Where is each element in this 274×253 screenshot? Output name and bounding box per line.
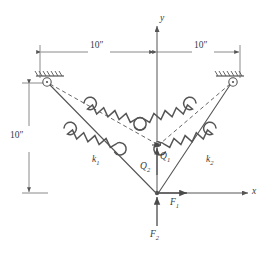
spring-k1 (50, 85, 155, 192)
dim-label-top-left: 10″ (90, 41, 103, 51)
dim-label-top-right: 10″ (194, 41, 207, 51)
spring-k1-label: k1 (92, 155, 99, 166)
spring-k2-label: k2 (206, 155, 213, 166)
coil-k1-upper (84, 97, 146, 130)
dof-Q2-subscript: 2 (147, 166, 150, 173)
force-F1-label: F1 (170, 198, 179, 209)
dashed-left (50, 84, 155, 143)
force-F2-label: F2 (150, 230, 159, 241)
member-k1 (50, 85, 155, 192)
coil-k2-upper (134, 97, 196, 130)
undeformed-members (50, 84, 230, 143)
figure-canvas: 10″ 10″ 10″ y x k1 k2 Q1 Q2 F1 F2 (0, 0, 274, 253)
dof-Q1-symbol: Q (160, 151, 167, 161)
dof-Q2-label: Q2 (140, 162, 150, 173)
spring-k2 (134, 85, 230, 192)
force-F1-subscript: 1 (176, 202, 179, 209)
spring-k2-subscript: 2 (210, 159, 213, 166)
support-left (35, 71, 64, 86)
dof-Q1-subscript: 1 (167, 156, 170, 163)
dimension-left-group (22, 83, 48, 193)
member-k2 (159, 85, 230, 192)
coil-k1-lower (64, 122, 126, 155)
axes-group (157, 26, 248, 193)
diagram-svg (0, 0, 274, 253)
dimension-top-group (40, 45, 240, 78)
dim-label-left-vertical: 10″ (10, 131, 23, 141)
dof-Q2-symbol: Q (140, 161, 147, 171)
dof-Q1-label: Q1 (160, 152, 170, 163)
force-F2-subscript: 2 (156, 234, 159, 241)
spring-k1-subscript: 1 (96, 159, 99, 166)
y-axis-label: y (160, 14, 164, 24)
x-axis-label: x (252, 187, 256, 197)
